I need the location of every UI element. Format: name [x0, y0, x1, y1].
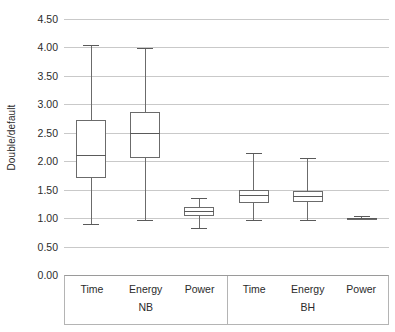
y-axis-tick-label: 2.00 — [38, 156, 58, 167]
whisker-cap-lower — [246, 220, 262, 221]
boxplot-nb-time — [64, 19, 118, 275]
boxplot-nb-power — [172, 19, 226, 275]
median-line — [239, 195, 269, 196]
y-axis-title: Double/default — [0, 0, 24, 275]
whisker-cap-upper — [300, 158, 316, 159]
median-line — [293, 196, 323, 197]
median-line — [130, 133, 160, 134]
y-axis-tick-label: 2.50 — [38, 128, 58, 139]
whisker-cap-upper — [83, 45, 99, 46]
whisker-lower — [91, 178, 92, 224]
y-axis-tick-label: 3.00 — [38, 99, 58, 110]
boxplot-chart: Double/default 4.504.003.503.002.502.001… — [0, 0, 395, 332]
box-iqr — [130, 112, 160, 159]
whisker-cap-lower — [137, 220, 153, 221]
boxplot-bh-power — [335, 19, 389, 275]
median-line — [76, 155, 106, 156]
plot-area — [64, 19, 389, 275]
x-axis-group-bh: TimeEnergyPowerBH — [227, 276, 389, 324]
y-axis-tick-label: 4.50 — [38, 14, 58, 25]
x-axis-category-label: Energy — [281, 283, 335, 295]
whisker-lower — [145, 158, 146, 219]
median-line — [184, 211, 214, 212]
y-axis-tick-label: 0.50 — [38, 241, 58, 252]
whisker-cap-lower — [300, 220, 316, 221]
whisker-upper — [145, 48, 146, 112]
y-axis-title-text: Double/default — [7, 105, 18, 171]
y-axis-tick-label: 0.00 — [38, 270, 58, 281]
whisker-cap-lower — [191, 228, 207, 229]
whisker-cap-upper — [246, 153, 262, 154]
whisker-upper — [91, 45, 92, 120]
whisker-cap-upper — [137, 48, 153, 49]
x-axis-category-row: TimeEnergyPower — [65, 276, 227, 301]
y-axis-tick-label: 4.00 — [38, 42, 58, 53]
y-axis-tick-label: 1.50 — [38, 184, 58, 195]
whisker-lower — [253, 203, 254, 221]
y-axis-tick-label: 3.50 — [38, 71, 58, 82]
boxplot-bh-energy — [281, 19, 335, 275]
whisker-upper — [307, 158, 308, 191]
whisker-lower — [199, 216, 200, 228]
x-axis-category-table: TimeEnergyPowerNBTimeEnergyPowerBH — [64, 275, 389, 325]
x-axis-category-label: Time — [228, 283, 282, 295]
boxplot-bh-time — [227, 19, 281, 275]
y-axis-tick-label: 1.00 — [38, 213, 58, 224]
median-line — [347, 218, 377, 219]
x-axis-group-nb: TimeEnergyPowerNB — [65, 276, 227, 324]
x-axis-group-label: BH — [228, 301, 389, 324]
boxplot-nb-energy — [118, 19, 172, 275]
whisker-cap-upper — [191, 198, 207, 199]
whisker-upper — [199, 198, 200, 207]
x-axis-category-label: Time — [65, 283, 119, 295]
whisker-upper — [253, 153, 254, 190]
whisker-cap-lower — [83, 224, 99, 225]
x-axis-category-label: Power — [173, 283, 227, 295]
box-iqr — [76, 120, 106, 179]
x-axis-category-label: Power — [335, 283, 389, 295]
x-axis-category-row: TimeEnergyPower — [228, 276, 389, 301]
x-axis-group-label: NB — [65, 301, 227, 324]
x-axis-category-label: Energy — [119, 283, 173, 295]
whisker-lower — [307, 202, 308, 220]
y-axis-tick-labels: 4.504.003.503.002.502.001.501.000.500.00 — [22, 0, 62, 290]
